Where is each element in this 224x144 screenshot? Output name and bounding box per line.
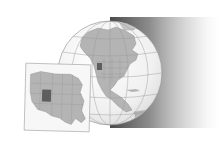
utah-highlight-inset	[42, 90, 51, 102]
locator-map-figure: Utah	[0, 0, 224, 144]
inset-map	[24, 63, 91, 132]
utah-highlight-globe	[97, 63, 102, 70]
map-illustration	[0, 0, 224, 144]
